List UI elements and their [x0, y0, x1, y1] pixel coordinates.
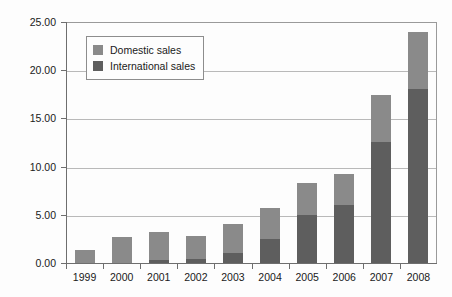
bar-segment[interactable]: [371, 142, 391, 263]
y-axis-line: [66, 22, 67, 264]
legend-label: Domestic sales: [110, 45, 181, 56]
x-axis-tick-mark: [326, 264, 327, 269]
legend-swatch-icon: [93, 45, 103, 55]
y-axis-tick-label: 0.00: [36, 258, 56, 269]
bar-segment[interactable]: [149, 232, 169, 260]
bar-segment[interactable]: [186, 259, 206, 263]
legend-item[interactable]: International sales: [93, 58, 195, 74]
x-axis-tick-mark: [66, 264, 67, 269]
chart-legend: Domestic salesInternational sales: [86, 36, 204, 80]
x-axis-tick-label: 2008: [400, 272, 437, 283]
bar-segment[interactable]: [75, 250, 95, 263]
bar-group-2006[interactable]: [334, 22, 354, 263]
x-axis-tick-mark: [103, 264, 104, 269]
bar-segment[interactable]: [223, 224, 243, 253]
y-axis-tick-mark: [61, 215, 66, 216]
bar-segment[interactable]: [223, 253, 243, 263]
legend-swatch-icon: [93, 61, 103, 71]
x-axis-tick-mark: [252, 264, 253, 269]
y-axis-tick-mark: [61, 22, 66, 23]
x-axis-tick-mark: [140, 264, 141, 269]
sales-stacked-bar-chart: 0.005.0010.0015.0020.0025.00 19992000200…: [0, 0, 452, 297]
x-axis-tick-label: 2001: [140, 272, 177, 283]
x-axis-tick-label: 2004: [252, 272, 289, 283]
y-axis-tick-mark: [61, 70, 66, 71]
bar-group-2003[interactable]: [223, 22, 243, 263]
bar-segment[interactable]: [297, 183, 317, 215]
x-axis-tick-label: 1999: [66, 272, 103, 283]
x-axis-tick-label: 2002: [177, 272, 214, 283]
bar-group-2008[interactable]: [408, 22, 428, 263]
bar-segment[interactable]: [260, 239, 280, 263]
bar-segment[interactable]: [297, 215, 317, 263]
bar-segment[interactable]: [334, 205, 354, 263]
y-axis-tick-mark: [61, 167, 66, 168]
bar-segment[interactable]: [149, 260, 169, 263]
y-axis-tick-label: 10.00: [30, 162, 56, 173]
y-axis-tick-label: 20.00: [30, 65, 56, 76]
x-axis-tick-mark: [177, 264, 178, 269]
x-axis-tick-mark: [214, 264, 215, 269]
legend-item[interactable]: Domestic sales: [93, 42, 195, 58]
x-axis-tick-label: 2005: [289, 272, 326, 283]
y-axis-tick-mark: [61, 118, 66, 119]
bar-segment[interactable]: [334, 174, 354, 205]
bar-segment[interactable]: [112, 237, 132, 263]
x-axis-tick-mark: [400, 264, 401, 269]
bar-segment[interactable]: [186, 236, 206, 259]
x-axis-tick-label: 2003: [214, 272, 251, 283]
y-axis-tick-label: 15.00: [30, 113, 56, 124]
x-axis-tick-label: 2006: [326, 272, 363, 283]
bar-segment[interactable]: [408, 32, 428, 90]
bar-group-2004[interactable]: [260, 22, 280, 263]
x-axis-tick-label: 2007: [363, 272, 400, 283]
bar-segment[interactable]: [371, 95, 391, 141]
y-axis-tick-label: 5.00: [36, 210, 56, 221]
x-axis-tick-mark: [289, 264, 290, 269]
bar-segment[interactable]: [408, 89, 428, 263]
legend-label: International sales: [110, 61, 195, 72]
bar-segment[interactable]: [260, 208, 280, 239]
bar-group-2007[interactable]: [371, 22, 391, 263]
y-axis-tick-label: 25.00: [30, 17, 56, 28]
bar-group-2005[interactable]: [297, 22, 317, 263]
x-axis-tick-label: 2000: [103, 272, 140, 283]
x-axis-tick-mark: [363, 264, 364, 269]
